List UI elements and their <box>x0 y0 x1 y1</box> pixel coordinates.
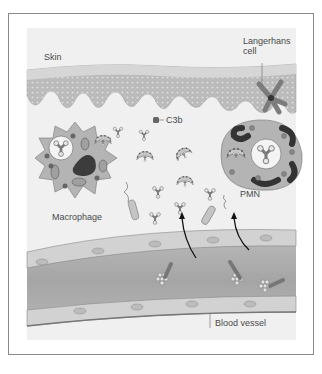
pmn-cell <box>221 120 302 190</box>
label-blood-vessel: Blood vessel <box>215 318 266 328</box>
blood-vessel <box>27 229 296 326</box>
label-langerhans-line1: Langerhans <box>243 36 291 46</box>
label-pmn: PMN <box>240 189 260 199</box>
label-langerhans-line2: cell <box>243 46 291 56</box>
label-skin: Skin <box>44 52 62 62</box>
skin-layer <box>27 64 296 113</box>
label-langerhans-cell: Langerhans cell <box>243 36 291 56</box>
label-c3b: C3b <box>166 115 183 125</box>
label-macrophage: Macrophage <box>52 212 102 222</box>
